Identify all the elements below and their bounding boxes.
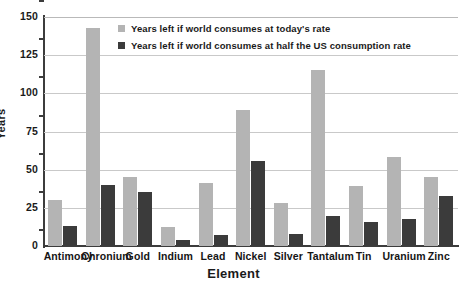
y-tick-label-125: 125 xyxy=(0,48,38,60)
category-label-chronium: Chronium xyxy=(81,250,119,262)
y-tick-label-25: 25 xyxy=(0,201,38,213)
bar-uranium-series1 xyxy=(387,157,401,246)
legend-item-half-us-rate: Years left if world consumes at half the… xyxy=(118,38,411,53)
bar-tin-series2 xyxy=(364,222,378,246)
category-label-gold: Gold xyxy=(119,250,157,262)
bar-zinc-series2 xyxy=(439,196,453,246)
gridline-75 xyxy=(44,132,458,133)
bar-indium-series1 xyxy=(161,227,175,246)
bar-chronium-series1 xyxy=(86,28,100,246)
y-tick-mark-100 xyxy=(39,76,44,78)
bar-silver-series1 xyxy=(274,203,288,246)
bar-zinc-series1 xyxy=(424,177,438,246)
legend-item-today-rate: Years left if world consumes at today's … xyxy=(118,21,411,36)
y-tick-mark-125 xyxy=(39,38,44,40)
y-tick-mark-0 xyxy=(39,229,44,231)
gridline-150 xyxy=(44,17,458,18)
bar-antimony-series2 xyxy=(63,226,77,246)
category-label-tin: Tin xyxy=(345,250,383,262)
x-axis-title: Element xyxy=(0,266,467,281)
category-label-nickel: Nickel xyxy=(232,250,270,262)
category-label-zinc: Zinc xyxy=(420,250,458,262)
gridline-100 xyxy=(44,93,458,94)
category-label-indium: Indium xyxy=(157,250,195,262)
bar-antimony-series1 xyxy=(48,200,62,246)
y-tick-label-50: 50 xyxy=(0,163,38,175)
y-tick-mark-75 xyxy=(39,115,44,117)
y-tick-label-100: 100 xyxy=(0,86,38,98)
legend-swatch-light-icon xyxy=(118,25,125,32)
category-label-uranium: Uranium xyxy=(382,250,420,262)
bar-tin-series1 xyxy=(349,186,363,246)
bar-indium-series2 xyxy=(176,240,190,246)
y-tick-mark-50 xyxy=(39,153,44,155)
legend-label-today-rate: Years left if world consumes at today's … xyxy=(131,23,330,34)
bar-nickel-series2 xyxy=(251,161,265,246)
bar-lead-series1 xyxy=(199,183,213,246)
gridline-125 xyxy=(44,55,458,56)
bar-gold-series2 xyxy=(138,192,152,246)
legend-label-half-us-rate: Years left if world consumes at half the… xyxy=(131,40,411,51)
y-axis-title: Years xyxy=(0,109,7,140)
legend-swatch-dark-icon xyxy=(118,42,125,49)
bar-silver-series2 xyxy=(289,234,303,246)
y-tick-label-0: 0 xyxy=(0,239,38,251)
category-label-antimony: Antimony xyxy=(44,250,82,262)
bar-gold-series1 xyxy=(123,177,137,246)
category-label-lead: Lead xyxy=(194,250,232,262)
bar-chronium-series2 xyxy=(101,185,115,246)
bar-tantalum-series1 xyxy=(311,70,325,246)
category-label-tantalum: Tantalum xyxy=(307,250,345,262)
bar-lead-series2 xyxy=(214,235,228,246)
category-label-silver: Silver xyxy=(270,250,308,262)
chart-legend: Years left if world consumes at today's … xyxy=(118,21,411,55)
y-tick-mark-25 xyxy=(39,191,44,193)
bar-uranium-series2 xyxy=(402,219,416,246)
y-tick-label-150: 150 xyxy=(0,10,38,22)
y-tick-mark-150 xyxy=(39,0,44,2)
bar-chart: 0255075100125150 Years AntimonyChroniumG… xyxy=(0,0,467,290)
bar-nickel-series1 xyxy=(236,110,250,246)
bar-tantalum-series2 xyxy=(326,216,340,246)
